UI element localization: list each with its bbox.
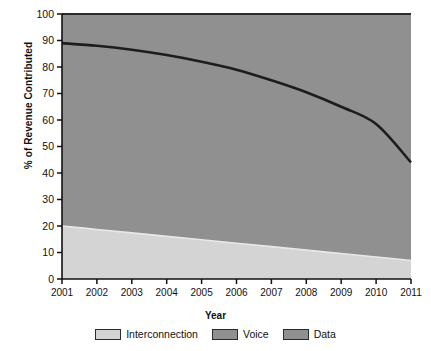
x-tick-label[interactable]: 2007 (260, 287, 283, 298)
x-tick-label[interactable]: 2005 (190, 287, 213, 298)
y-tick-label[interactable]: 90 (42, 34, 54, 46)
x-tick-label[interactable]: 2006 (225, 287, 248, 298)
legend-item[interactable]: Interconnection (95, 328, 198, 340)
legend-swatch (212, 329, 238, 340)
legend-label: Interconnection (126, 328, 198, 340)
x-tick-label[interactable]: 2001 (51, 287, 74, 298)
x-axis-title: Year (0, 310, 431, 321)
x-tick-label[interactable]: 2010 (365, 287, 388, 298)
x-tick-label[interactable]: 2008 (295, 287, 318, 298)
x-tick-label[interactable]: 2011 (400, 287, 422, 298)
y-tick-label[interactable]: 30 (42, 193, 54, 205)
y-tick-label[interactable]: 60 (42, 114, 54, 126)
legend-item[interactable]: Data (283, 328, 336, 340)
y-tick-label[interactable]: 100 (36, 8, 54, 20)
legend-swatch (283, 329, 309, 340)
chart-legend: InterconnectionVoiceData (0, 328, 431, 340)
y-tick-label[interactable]: 50 (42, 140, 54, 152)
y-axis-title: % of Revenue Contributed (23, 26, 34, 186)
x-tick-label[interactable]: 2003 (121, 287, 144, 298)
legend-swatch (95, 329, 121, 340)
legend-label: Voice (243, 328, 269, 340)
legend-item[interactable]: Voice (212, 328, 269, 340)
y-tick-label[interactable]: 40 (42, 167, 54, 179)
y-tick-label[interactable]: 0 (48, 273, 54, 285)
y-tick-label[interactable]: 70 (42, 87, 54, 99)
x-tick-label[interactable]: 2002 (86, 287, 109, 298)
y-tick-label[interactable]: 20 (42, 220, 54, 232)
x-tick-label[interactable]: 2004 (156, 287, 179, 298)
x-tick-label[interactable]: 2009 (330, 287, 353, 298)
chart-container: 0102030405060708090100200120022003200420… (0, 0, 431, 351)
y-tick-label[interactable]: 10 (42, 246, 54, 258)
y-tick-label[interactable]: 80 (42, 61, 54, 73)
legend-label: Data (314, 328, 336, 340)
area-chart-plot: 0102030405060708090100200120022003200420… (0, 0, 431, 300)
